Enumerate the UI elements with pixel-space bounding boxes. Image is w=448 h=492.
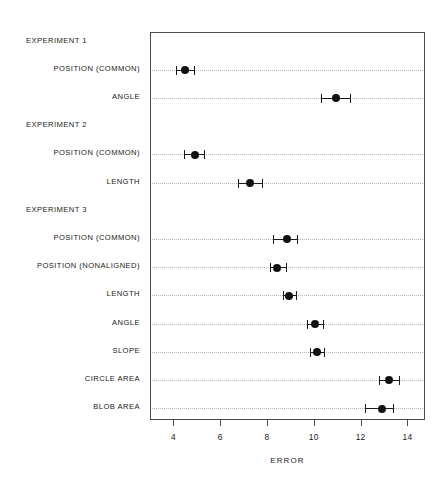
data-point-row bbox=[151, 177, 424, 190]
data-point bbox=[191, 151, 199, 159]
x-axis: ERROR 468101214 bbox=[150, 420, 425, 480]
x-tick bbox=[267, 420, 268, 426]
x-tick-label: 10 bbox=[309, 432, 319, 442]
error-bar-cap-low bbox=[321, 94, 322, 103]
row-label: BLOB AREA bbox=[93, 403, 140, 411]
row-label: POSITION (NONALIGNED) bbox=[37, 262, 140, 270]
error-bar-cap-high bbox=[262, 179, 263, 188]
data-point-row bbox=[151, 318, 424, 331]
error-bar-cap-high bbox=[286, 263, 287, 272]
x-tick-label: 6 bbox=[218, 432, 223, 442]
x-tick-label: 12 bbox=[356, 432, 366, 442]
row-label: LENGTH bbox=[106, 178, 140, 186]
error-bar-cap-high bbox=[204, 150, 205, 159]
row-label: SLOPE bbox=[112, 347, 140, 355]
data-point-row bbox=[151, 289, 424, 302]
data-point bbox=[385, 376, 393, 384]
data-point-row bbox=[151, 402, 424, 415]
error-bar-cap-low bbox=[307, 320, 308, 329]
group-label: EXPERIMENT 2 bbox=[26, 121, 87, 129]
x-tick-label: 4 bbox=[171, 432, 176, 442]
data-point-row bbox=[151, 64, 424, 77]
error-bar-cap-high bbox=[393, 404, 394, 413]
x-axis-title: ERROR bbox=[150, 456, 425, 465]
group-label: EXPERIMENT 1 bbox=[26, 37, 87, 45]
error-bar-cap-high bbox=[297, 235, 298, 244]
error-bar-cap-low bbox=[273, 235, 274, 244]
x-tick-label: 14 bbox=[402, 432, 412, 442]
data-point-row bbox=[151, 233, 424, 246]
error-bar-cap-high bbox=[399, 376, 400, 385]
x-tick bbox=[314, 420, 315, 426]
row-label-column: EXPERIMENT 1POSITION (COMMON)ANGLEEXPERI… bbox=[0, 0, 146, 492]
data-point-row bbox=[151, 374, 424, 387]
error-bar-cap-high bbox=[324, 348, 325, 357]
data-point bbox=[273, 264, 281, 272]
x-tick bbox=[407, 420, 408, 426]
row-label: POSITION (COMMON) bbox=[53, 65, 140, 73]
error-bar-cap-low bbox=[238, 179, 239, 188]
x-tick bbox=[173, 420, 174, 426]
error-bar-cap-low bbox=[270, 263, 271, 272]
data-point bbox=[378, 405, 386, 413]
data-point bbox=[313, 348, 321, 356]
error-bar-cap-low bbox=[310, 348, 311, 357]
error-bar-cap-high bbox=[323, 320, 324, 329]
data-point-row bbox=[151, 148, 424, 161]
data-point bbox=[246, 179, 254, 187]
chart-figure: EXPERIMENT 1POSITION (COMMON)ANGLEEXPERI… bbox=[0, 0, 448, 492]
data-point bbox=[283, 235, 291, 243]
row-label: ANGLE bbox=[112, 93, 140, 101]
error-bar-cap-high bbox=[194, 66, 195, 75]
data-point-row bbox=[151, 346, 424, 359]
error-bar-cap-low bbox=[176, 66, 177, 75]
x-tick bbox=[220, 420, 221, 426]
error-bar-cap-low bbox=[365, 404, 366, 413]
data-point-row bbox=[151, 92, 424, 105]
data-point-row bbox=[151, 261, 424, 274]
error-bar-cap-low bbox=[184, 150, 185, 159]
error-bar-cap-high bbox=[296, 291, 297, 300]
x-tick bbox=[361, 420, 362, 426]
error-bar-cap-high bbox=[350, 94, 351, 103]
data-point bbox=[332, 94, 340, 102]
plot-inner bbox=[151, 33, 424, 419]
row-label: POSITION (COMMON) bbox=[53, 149, 140, 157]
x-tick-label: 8 bbox=[265, 432, 270, 442]
group-label: EXPERIMENT 3 bbox=[26, 206, 87, 214]
row-label: CIRCLE AREA bbox=[85, 375, 140, 383]
row-label: POSITION (COMMON) bbox=[53, 234, 140, 242]
error-bar-cap-low bbox=[283, 291, 284, 300]
data-point bbox=[285, 292, 293, 300]
error-bar-cap-low bbox=[379, 376, 380, 385]
row-label: ANGLE bbox=[112, 319, 140, 327]
plot-area bbox=[150, 32, 425, 420]
data-point bbox=[181, 66, 189, 74]
row-label: LENGTH bbox=[106, 290, 140, 298]
data-point bbox=[311, 320, 319, 328]
